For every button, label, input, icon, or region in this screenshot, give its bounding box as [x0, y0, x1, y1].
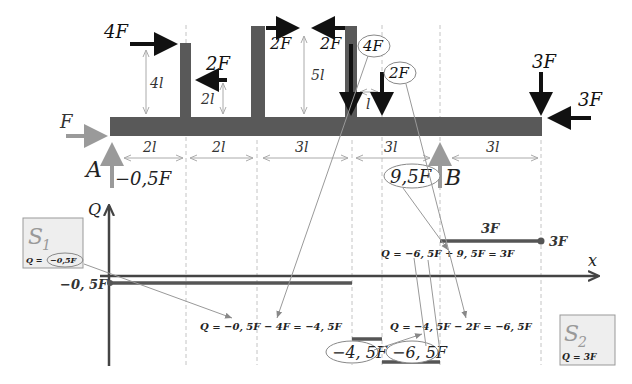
- svg-text:2: 2: [577, 334, 587, 350]
- section-S2-box: S 2 Q = 3F: [560, 315, 615, 365]
- bubble-2F: 2F: [384, 62, 416, 84]
- label-2F-post1: 2F: [205, 53, 231, 74]
- beam-shear-diagram: 4l 2l 5l l 2l 2l 3l 3l 3l 4F 2F 2F 2F 3F…: [0, 0, 632, 384]
- svg-text:Q = 3F: Q = 3F: [562, 352, 597, 362]
- span-2: 2l: [211, 139, 225, 155]
- label-3F-horizontal: 3F: [578, 89, 603, 110]
- svg-text:Q =: Q =: [26, 255, 42, 265]
- level-minus-0-5F: −0, 5F: [60, 277, 108, 292]
- svg-text:1: 1: [42, 237, 51, 253]
- level-3F-end: 3F: [549, 234, 568, 249]
- label-4F: 4F: [103, 21, 129, 42]
- span-4: 3l: [384, 139, 397, 155]
- span-1: 2l: [142, 139, 156, 155]
- level-3F-segment: 3F: [481, 221, 500, 236]
- dim-2l-post: 2l: [200, 91, 214, 107]
- span-3: 3l: [295, 139, 308, 155]
- svg-text:S: S: [564, 321, 579, 346]
- label-A: A: [84, 157, 102, 182]
- point-start: [107, 280, 113, 286]
- reaction-A-value: −0,5F: [115, 168, 173, 189]
- svg-text:S: S: [28, 224, 43, 249]
- formula-2: Q = −4, 5F − 2F = −6, 5F: [390, 321, 532, 333]
- dim-5l: 5l: [311, 67, 324, 83]
- point-end: [538, 238, 545, 245]
- x-axis-label: x: [588, 251, 597, 270]
- section-S1-box: S 1 Q = −0,5F: [23, 218, 83, 268]
- q-segments: [110, 241, 541, 362]
- svg-text:−4, 5F: −4, 5F: [332, 343, 388, 362]
- svg-text:9,5F: 9,5F: [390, 166, 433, 187]
- dashed-guides: [186, 25, 541, 365]
- svg-text:4F: 4F: [362, 37, 384, 55]
- svg-text:2F: 2F: [388, 64, 410, 82]
- bubble-minus-4-5F: −4, 5F: [326, 341, 388, 363]
- formula-1: Q = −0, 5F − 4F = −4, 5F: [200, 321, 342, 333]
- q-axis-label: Q: [88, 200, 101, 219]
- label-2F-right: 2F: [269, 34, 292, 53]
- label-2F-left: 2F: [319, 34, 342, 53]
- dim-4l: 4l: [149, 75, 163, 91]
- label-3F-vertical: 3F: [532, 51, 557, 72]
- label-F: F: [59, 111, 74, 132]
- label-B: B: [444, 165, 461, 190]
- leader-lines: [84, 56, 466, 352]
- bubble-4F: 4F: [358, 35, 390, 57]
- span-5: 3l: [486, 139, 499, 155]
- dim-l: l: [366, 96, 370, 112]
- svg-text:−0,5F: −0,5F: [50, 255, 78, 265]
